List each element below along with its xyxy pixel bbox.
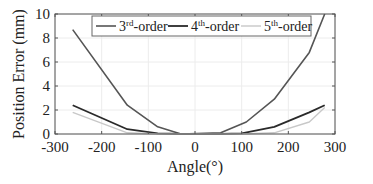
y-tick-label: 8 [43,30,51,46]
y-axis-label: Position Error (mm) [10,9,28,139]
line-chart: -300-200-10001002003000246810 Angle(°) P… [0,0,373,184]
x-axis-label: Angle(°) [167,158,223,176]
x-tick-label: 100 [230,139,253,155]
y-tick-label: 2 [43,102,51,118]
y-tick-label: 0 [43,126,51,142]
x-tick-label: 0 [191,139,199,155]
y-tick-label: 4 [43,78,51,94]
y-tick-label: 10 [35,6,50,22]
x-tick-label: 200 [277,139,300,155]
x-tick-label: 300 [324,139,347,155]
y-tick-label: 6 [43,54,51,70]
x-tick-label: -200 [88,139,116,155]
x-tick-label: -100 [135,139,163,155]
legend: 3rd-order4th-order5th-order [92,16,313,36]
